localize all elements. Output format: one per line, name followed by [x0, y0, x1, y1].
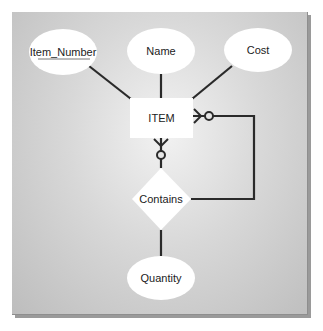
connector-item-number [89, 66, 131, 99]
attribute-label: Item_Number [30, 46, 97, 58]
attribute-item-number[interactable]: Item_Number [29, 29, 97, 75]
attribute-cost[interactable]: Cost [224, 28, 292, 72]
relationship-label: Contains [139, 193, 183, 205]
attribute-label: Cost [247, 44, 270, 56]
relationship-contains[interactable]: Contains [132, 168, 191, 230]
entity-label: ITEM [148, 112, 174, 124]
connector-cost [192, 66, 232, 99]
attribute-label: Quantity [141, 272, 182, 284]
attribute-quantity[interactable]: Quantity [127, 256, 195, 300]
attribute-label: Name [146, 45, 175, 57]
er-diagram: Item_Number Name Cost Quantity ITEM Cont… [0, 0, 323, 331]
connector-item-contains-loop [191, 116, 254, 199]
entity-item[interactable]: ITEM [130, 98, 193, 138]
attribute-name[interactable]: Name [127, 28, 195, 74]
